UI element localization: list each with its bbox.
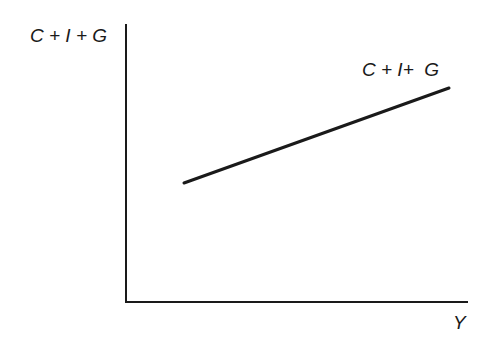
y-axis-label: C + I + G: [30, 26, 107, 45]
aggregate-expenditure-line: [184, 88, 449, 183]
x-axis-label: Y: [453, 313, 466, 332]
diagram-canvas: [0, 0, 490, 337]
curve-label: C + I+ G: [362, 60, 439, 79]
